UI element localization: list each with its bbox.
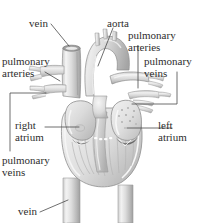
label-vein-top: vein xyxy=(29,18,48,30)
label-pulmonary-arteries-right: pulmonary arteries xyxy=(128,30,176,53)
leader-vein-top xyxy=(51,24,69,46)
right-pulmonary-veins xyxy=(30,84,66,99)
label-pulmonary-arteries-left: pulmonary arteries xyxy=(2,56,50,79)
aortic-root xyxy=(93,96,108,118)
aortic-arch xyxy=(85,29,129,96)
inferior-vena-cava xyxy=(63,178,80,223)
label-right-atrium: right atrium xyxy=(15,120,44,143)
descending-aorta xyxy=(118,185,133,223)
label-vein-bottom: vein xyxy=(18,206,37,218)
label-aorta: aorta xyxy=(107,18,129,30)
label-pulmonary-veins-right: pulmonary veins xyxy=(144,56,192,79)
label-left-atrium: left atrium xyxy=(158,120,187,143)
heart-diagram-figure: vein pulmonary arteries aorta pulmonary … xyxy=(0,0,199,223)
label-pulmonary-veins-left: pulmonary veins xyxy=(2,155,50,178)
